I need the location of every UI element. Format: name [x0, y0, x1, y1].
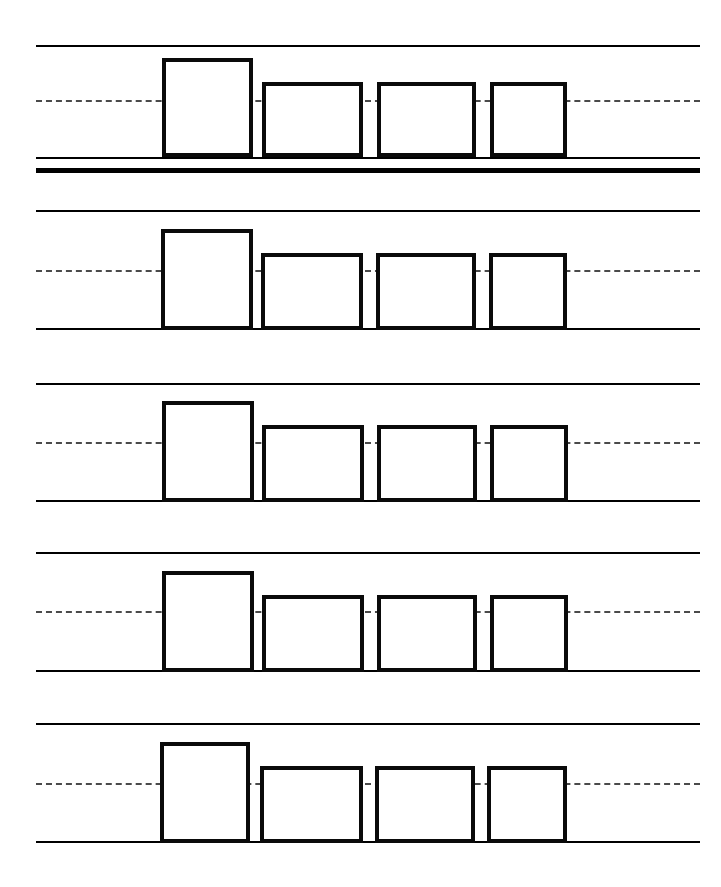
glyph-box-short-r5-c3 — [375, 766, 475, 843]
glyph-box-tall-r5-c1 — [160, 742, 250, 843]
glyph-box-short-r5-c2 — [260, 766, 363, 843]
worksheet-page: Handwriting Practice Worksheet — [0, 0, 721, 887]
topline-rule-5 — [36, 723, 700, 725]
baseline-rule-5 — [36, 841, 700, 843]
glyph-box-short-r5-c4 — [487, 766, 567, 843]
rule-row-5 — [0, 0, 721, 887]
midline-dashed-rule-5 — [36, 783, 700, 785]
